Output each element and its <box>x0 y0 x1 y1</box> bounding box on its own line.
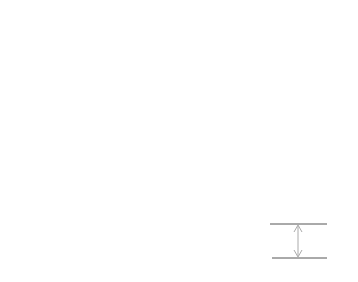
pile-layout-diagram <box>0 0 358 282</box>
spacing-dimension <box>270 224 327 258</box>
